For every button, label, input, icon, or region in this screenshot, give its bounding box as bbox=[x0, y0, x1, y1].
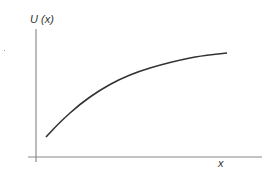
x-axis-label: x bbox=[218, 157, 224, 169]
stray-dot bbox=[4, 50, 5, 51]
utility-chart bbox=[0, 0, 274, 173]
utility-curve bbox=[46, 53, 227, 137]
y-axis-label: U (x) bbox=[30, 13, 54, 25]
